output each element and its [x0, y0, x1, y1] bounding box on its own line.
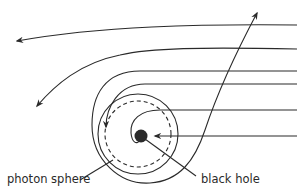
light-ray-2: [37, 48, 297, 106]
light-ray-5: [131, 110, 297, 143]
black-hole: [135, 130, 148, 143]
black-hole-leader: [145, 139, 196, 176]
photon-sphere-label: photon sphere: [7, 172, 90, 186]
light-ray-1: [17, 25, 297, 41]
light-ray-3: [92, 13, 297, 183]
black-hole-diagram: [0, 0, 305, 193]
black-hole-label: black hole: [201, 172, 260, 186]
